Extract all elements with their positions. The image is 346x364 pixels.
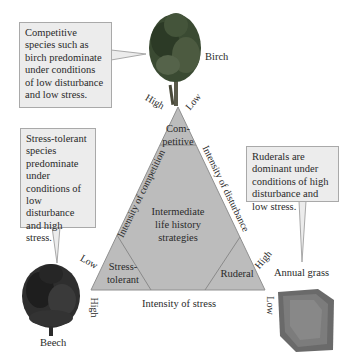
region-stress-tolerant: Stress- tolerant [100, 260, 146, 286]
birch-label: Birch [205, 51, 228, 62]
tick-stress-high: High [89, 298, 100, 318]
annual-grass-icon [278, 289, 334, 352]
axis-stress: Intensity of stress [142, 298, 216, 309]
region-ruderal: Ruderal [212, 267, 262, 280]
annual-grass-label: Annual grass [274, 267, 329, 278]
tick-stress-low: Low [265, 296, 276, 314]
callout-pointer-stress-tolerant [52, 227, 60, 263]
callout-pointer-competitive [111, 50, 146, 60]
callout-competitive-text: Competitive species such as birch predom… [25, 27, 103, 100]
beech-tree-icon [22, 264, 80, 336]
beech-label: Beech [40, 337, 66, 348]
region-intermediate: Intermediate life history strategies [138, 205, 218, 244]
callout-pointer-ruderal [299, 201, 306, 262]
callout-ruderal: Ruderals are dominant under conditions o… [246, 146, 339, 202]
callout-competitive: Competitive species such as birch predom… [19, 22, 112, 108]
callout-stress-tolerant: Stress-tolerant species predominate unde… [20, 128, 96, 228]
callout-stress-tolerant-text: Stress-tolerant species predominate unde… [26, 133, 87, 243]
